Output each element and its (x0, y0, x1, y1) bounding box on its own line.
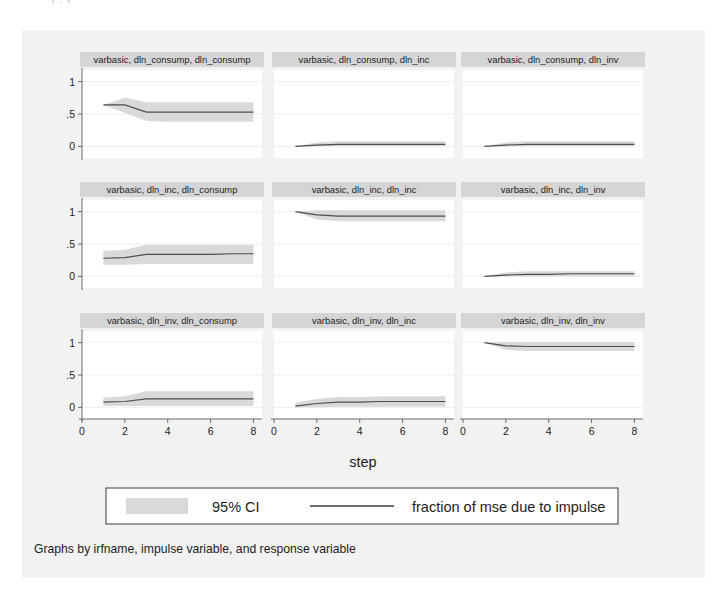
x-axis-tick-label: 6 (400, 425, 406, 437)
fevd-panel: varbasic, dln_inc, dln_inv (461, 182, 645, 288)
x-axis-tick-label: 4 (546, 425, 552, 437)
fevd-panel: varbasic, dln_inv, dln_inc02468 (271, 313, 456, 437)
y-axis-tick-label: .5 (66, 108, 75, 120)
x-axis-tick-label: 4 (357, 425, 363, 437)
y-axis-tick-label: 0 (69, 401, 75, 413)
x-axis-tick-label: 0 (460, 425, 466, 437)
stata-fevd-figure: varbasic, dln_consump, dln_consump0.51va… (22, 30, 705, 578)
legend-ci-swatch (126, 498, 188, 514)
x-axis-tick-label: 8 (632, 425, 638, 437)
figure-note: Graphs by irfname, impulse variable, and… (34, 542, 356, 556)
panel-title: varbasic, dln_consump, dln_inv (488, 54, 619, 65)
panel-title: varbasic, dln_consump, dln_consump (94, 54, 251, 65)
panel-title: varbasic, dln_inc, dln_inv (501, 184, 606, 195)
x-axis-tick-label: 0 (271, 425, 277, 437)
x-axis-tick-label: 2 (503, 425, 509, 437)
x-axis-tick-label: 0 (79, 425, 85, 437)
fevd-panel: varbasic, dln_inc, dln_inc (272, 182, 456, 288)
x-axis-tick-label: 6 (589, 425, 595, 437)
x-axis-tick-label: 8 (251, 425, 257, 437)
x-axis-tick-label: 2 (314, 425, 320, 437)
legend-ci-label: 95% CI (212, 499, 260, 515)
panel-title: varbasic, dln_inv, dln_inv (501, 315, 605, 326)
fevd-panel: varbasic, dln_inc, dln_consump0.51 (66, 182, 264, 290)
y-axis-tick-label: 1 (69, 76, 75, 88)
fevd-panel: varbasic, dln_inv, dln_inv02468 (460, 313, 645, 437)
x-axis-tick-label: 8 (443, 425, 449, 437)
y-axis-tick-label: 1 (69, 337, 75, 349)
fevd-panel: varbasic, dln_consump, dln_inc (272, 52, 456, 158)
y-axis-tick-label: 1 (69, 206, 75, 218)
x-axis-title: step (349, 454, 376, 470)
x-axis-tick-label: 2 (122, 425, 128, 437)
panel-title: varbasic, dln_consump, dln_inc (299, 54, 430, 65)
chart-legend: 95% CIfraction of mse due to impulse (106, 488, 618, 524)
fevd-panel: varbasic, dln_consump, dln_inv (461, 52, 645, 158)
scan-artifact-text: l . l (52, 0, 71, 5)
panel-title: varbasic, dln_inc, dln_inc (312, 184, 417, 195)
x-axis-tick-label: 4 (165, 425, 171, 437)
fevd-panel: varbasic, dln_consump, dln_consump0.51 (66, 52, 264, 160)
scan-artifact-strip: l . l (0, 0, 727, 14)
fevd-panel: varbasic, dln_inv, dln_consump0.5102468 (66, 313, 264, 437)
fevd-panel-grid: varbasic, dln_consump, dln_consump0.51va… (22, 30, 705, 578)
panel-title: varbasic, dln_inc, dln_consump (107, 184, 238, 195)
y-axis-tick-label: 0 (69, 140, 75, 152)
y-axis-tick-label: 0 (69, 270, 75, 282)
legend-line-label: fraction of mse due to impulse (412, 499, 605, 515)
panel-title: varbasic, dln_inv, dln_inc (312, 315, 416, 326)
x-axis-tick-label: 6 (208, 425, 214, 437)
y-axis-tick-label: .5 (66, 369, 75, 381)
y-axis-tick-label: .5 (66, 238, 75, 250)
panel-title: varbasic, dln_inv, dln_consump (107, 315, 237, 326)
